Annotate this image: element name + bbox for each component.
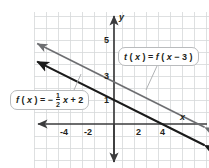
t-equals: = bbox=[148, 52, 153, 62]
coordinate-plane bbox=[0, 0, 209, 168]
x-tick-label-2: 2 bbox=[136, 128, 141, 137]
f-var: x bbox=[63, 95, 68, 105]
f-function-equation: f(x) = −12x + 2 bbox=[16, 92, 83, 108]
f-constant: 2 bbox=[78, 95, 83, 105]
leader-line-t bbox=[146, 66, 157, 90]
t-lhs-var: x bbox=[135, 52, 140, 62]
y-tick-label-3: 3 bbox=[104, 72, 109, 81]
t-function-equation: t(x) = f(x − 3) bbox=[124, 52, 193, 62]
fraction-numerator: 1 bbox=[56, 92, 60, 100]
t-rhs-shift: 3 bbox=[182, 52, 187, 62]
t-function-callout: t(x) = f(x − 3) bbox=[118, 47, 199, 66]
f-plus: + bbox=[70, 95, 75, 105]
one-half-fraction: 12 bbox=[56, 92, 60, 108]
t-rhs-op: − bbox=[174, 52, 179, 62]
t-lhs-fn: t bbox=[124, 52, 127, 62]
f-function-callout: f(x) = −12x + 2 bbox=[10, 90, 89, 110]
y-tick-label-5: 5 bbox=[104, 36, 109, 45]
t-rhs-var: x bbox=[167, 52, 172, 62]
x-tick-label-neg4: -4 bbox=[60, 128, 68, 137]
f-equals: = bbox=[40, 95, 45, 105]
y-tick-label-1: 1 bbox=[104, 96, 109, 105]
f-sign: − bbox=[48, 95, 53, 105]
fraction-denominator: 2 bbox=[56, 99, 60, 108]
t-rhs-fn: f bbox=[156, 52, 159, 62]
graph-figure: y x -4 -2 2 4 5 3 1 t(x) = f(x − 3) f(x)… bbox=[0, 0, 209, 168]
x-tick-label-neg2: -2 bbox=[84, 128, 92, 137]
x-tick-label-4: 4 bbox=[160, 128, 165, 137]
x-axis-label: x bbox=[180, 113, 185, 122]
y-axis-label: y bbox=[119, 13, 124, 22]
f-lhs-fn: f bbox=[16, 95, 19, 105]
f-lhs-var: x bbox=[27, 95, 32, 105]
